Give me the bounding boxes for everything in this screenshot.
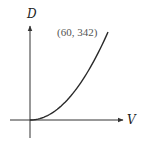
x-axis-label: V [127, 113, 137, 127]
chart: D V (60, 342) [0, 0, 141, 142]
data-curve [30, 32, 108, 120]
y-axis-label: D [26, 7, 37, 21]
point-annotation: (60, 342) [57, 26, 98, 39]
